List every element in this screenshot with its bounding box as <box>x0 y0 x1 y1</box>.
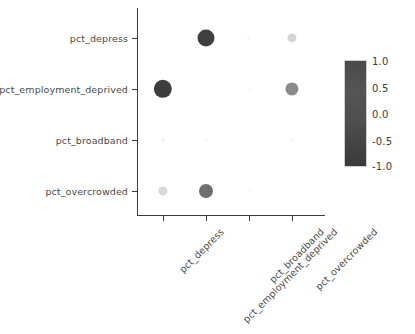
colorbar-gradient <box>344 60 367 167</box>
correlation-dot <box>285 82 298 95</box>
colorbar-tick-label-2: 0.0 <box>372 109 389 120</box>
colorbar-tick-label-1: 0.5 <box>372 82 389 93</box>
colorbar-tick-label-0: 1.0 <box>372 56 389 67</box>
correlation-dot <box>154 80 172 98</box>
colorbar-tick-label-3: -0.5 <box>372 135 392 146</box>
correlation-dot <box>199 184 213 198</box>
correlation-dot <box>247 36 250 39</box>
correlation-dot <box>248 88 251 91</box>
correlation-dot <box>161 138 165 142</box>
correlation-dot <box>248 190 251 193</box>
correlation-dot <box>198 30 215 47</box>
correlation-dot <box>158 186 167 195</box>
correlation-dots-layer <box>0 0 415 334</box>
correlation-dot <box>287 33 296 42</box>
correlation-dot <box>290 138 293 141</box>
correlation-matrix-figure: pct_depress pct_employment_deprived pct_… <box>0 0 415 334</box>
correlation-dot <box>204 138 207 141</box>
colorbar-tick-label-4: -1.0 <box>372 161 392 172</box>
